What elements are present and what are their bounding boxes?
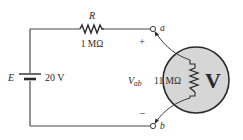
source-label: E [7,72,14,83]
source-value: 20 V [45,72,65,83]
battery-icon [19,74,41,79]
resistor-icon [80,25,104,33]
plus-sign: + [139,36,145,47]
terminal-b-label: b [160,121,165,131]
terminal-a-icon [150,26,155,31]
meter-resistance-value: 11 MΩ [154,76,181,86]
terminal-b-icon [150,123,155,128]
vab-label: Vab [128,75,142,88]
terminal-a-label: a [160,23,165,33]
resistor-value: 1 MΩ [81,39,104,49]
circuit-diagram: R 1 MΩ E 20 V a + b − V Vab 11 MΩ [0,0,243,140]
resistor-label: R [88,10,95,21]
vab-subscript: ab [134,79,142,88]
voltmeter-symbol: V [205,68,221,93]
minus-sign: − [139,107,145,119]
